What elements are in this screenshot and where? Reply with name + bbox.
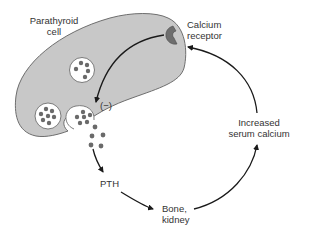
parathyroid-cell-label: Parathyroid cell xyxy=(24,15,84,37)
bone-kidney-to-calcium-arrow xyxy=(194,145,257,209)
calcium-receptor-label: Calcium receptor xyxy=(187,19,222,41)
label-line: kidney xyxy=(162,214,189,225)
label-line: serum calcium xyxy=(221,128,297,139)
label-line: receptor xyxy=(187,30,222,41)
secretory-vesicle-upper xyxy=(70,58,95,83)
increased-serum-calcium-label: Increased serum calcium xyxy=(221,117,297,139)
label-line: Increased xyxy=(221,117,297,128)
pth-label: PTH xyxy=(100,178,119,189)
label-line: PTH xyxy=(100,178,119,189)
released-pth-granules xyxy=(89,125,106,149)
inhibition-label: (−) xyxy=(100,100,112,111)
pth-to-bone-kidney-arrow xyxy=(121,192,153,209)
secretory-vesicle-left xyxy=(35,103,61,129)
label-line: Bone, xyxy=(162,203,189,214)
calcium-to-receptor-arrow xyxy=(188,47,257,113)
secretion-arrow xyxy=(93,149,103,172)
secretory-vesicle-exocytosis xyxy=(66,106,94,129)
label-line: (−) xyxy=(100,100,112,111)
label-line: cell xyxy=(24,26,84,37)
label-line: Parathyroid xyxy=(24,15,84,26)
bone-kidney-label: Bone, kidney xyxy=(162,203,189,225)
label-line: Calcium xyxy=(187,19,222,30)
